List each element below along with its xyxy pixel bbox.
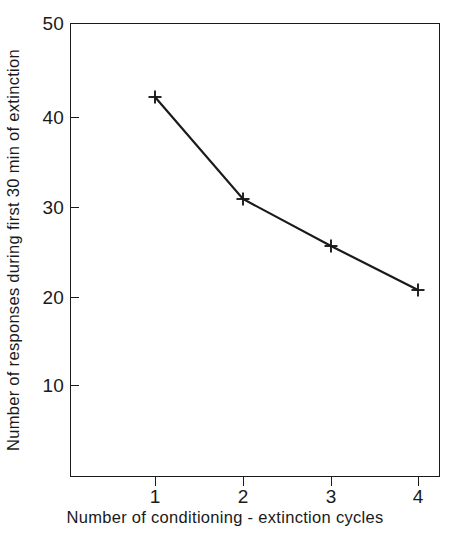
x-axis-label: Number of conditioning - extinction cycl… bbox=[0, 508, 450, 527]
data-point-marker bbox=[325, 240, 338, 253]
figure-chart: Number of responses during first 30 min … bbox=[0, 0, 450, 535]
data-point-marker bbox=[412, 284, 425, 297]
data-series-layer bbox=[0, 0, 450, 535]
series-markers bbox=[149, 91, 425, 297]
series-line-responses bbox=[155, 97, 418, 290]
